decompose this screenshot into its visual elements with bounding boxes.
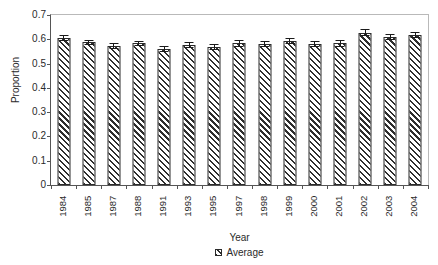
error-bar-cap-top: [260, 41, 269, 42]
error-bar-cap-top: [84, 40, 93, 41]
error-bar-cap-bottom: [109, 48, 118, 49]
error-bar: [210, 44, 219, 50]
bar-group: [202, 15, 227, 185]
error-bar: [134, 41, 143, 47]
y-tick-label: 0.3: [32, 107, 46, 117]
x-tick-mark: [126, 185, 127, 189]
x-tick-mark: [152, 185, 153, 189]
x-tick-label: 1988: [133, 177, 143, 217]
legend-swatch-icon: [215, 249, 222, 256]
plot-frame: 00.10.20.30.40.50.60.7: [50, 14, 429, 186]
x-tick-mark: [327, 185, 328, 189]
error-bar-cap-bottom: [160, 51, 169, 52]
x-tick-label: 1987: [108, 177, 118, 217]
error-bar-cap-bottom: [285, 43, 294, 44]
error-bar-cap-top: [336, 40, 345, 41]
x-tick-label: 2001: [334, 177, 344, 217]
x-tick-label: 1991: [158, 177, 168, 217]
bar: [409, 35, 422, 185]
x-tick-mark: [51, 185, 52, 189]
bar: [82, 42, 95, 185]
bar: [107, 46, 120, 185]
x-tick-label: 1985: [83, 177, 93, 217]
bar: [233, 43, 246, 185]
error-bar: [84, 40, 93, 45]
error-bar-cap-bottom: [210, 49, 219, 50]
x-tick-mark: [403, 185, 404, 189]
error-bar-cap-top: [210, 44, 219, 45]
bar-group: [227, 15, 252, 185]
bar-chart: Proportion 00.10.20.30.40.50.60.7 Year A…: [0, 0, 438, 265]
error-bar: [235, 40, 244, 46]
x-tick-label: 1993: [183, 177, 193, 217]
error-bar-cap-top: [235, 40, 244, 41]
error-bar: [310, 41, 319, 47]
error-bar: [59, 35, 68, 41]
error-bar-cap-bottom: [84, 44, 93, 45]
x-tick-label: 2003: [385, 177, 395, 217]
error-bar-cap-top: [185, 42, 194, 43]
bar: [258, 44, 271, 185]
bar-group: [403, 15, 428, 185]
x-tick-mark: [177, 185, 178, 189]
y-tick-label: 0.7: [32, 10, 46, 20]
y-tick-label: 0.5: [32, 59, 46, 69]
bar-group: [101, 15, 126, 185]
x-tick-label: 1995: [209, 177, 219, 217]
y-axis-title: Proportion: [9, 0, 23, 180]
error-bar-cap-top: [411, 32, 420, 33]
error-bar-cap-bottom: [185, 47, 194, 48]
error-bar-cap-top: [310, 41, 319, 42]
error-bar: [411, 32, 420, 37]
x-tick-mark: [227, 185, 228, 189]
bar: [208, 47, 221, 185]
error-bar-cap-bottom: [361, 35, 370, 36]
error-bar: [109, 43, 118, 49]
bar: [283, 41, 296, 185]
x-tick-label: 2002: [359, 177, 369, 217]
error-bar: [185, 42, 194, 48]
bar-group: [76, 15, 101, 185]
error-bar-cap-top: [285, 38, 294, 39]
bar-group: [378, 15, 403, 185]
bar-group: [126, 15, 151, 185]
error-bar-cap-top: [109, 43, 118, 44]
x-axis-title: Year: [50, 232, 429, 243]
error-bar-cap-bottom: [134, 45, 143, 46]
error-bar-cap-bottom: [386, 39, 395, 40]
bar: [359, 33, 372, 185]
bar-group: [277, 15, 302, 185]
error-bar-cap-top: [59, 35, 68, 36]
error-bar-cap-top: [160, 46, 169, 47]
error-bar-cap-top: [361, 29, 370, 30]
bar: [384, 37, 397, 185]
error-bar-cap-bottom: [411, 37, 420, 38]
y-tick-label: 0.1: [32, 156, 46, 166]
x-tick-label: 1998: [259, 177, 269, 217]
bar-group: [327, 15, 352, 185]
bar-group: [152, 15, 177, 185]
y-tick-label: 0.2: [32, 131, 46, 141]
x-tick-label: 1997: [234, 177, 244, 217]
x-tick-label: 2004: [410, 177, 420, 217]
y-tick-label: 0.4: [32, 83, 46, 93]
error-bar-cap-top: [134, 41, 143, 42]
bar-group: [177, 15, 202, 185]
error-bar: [285, 38, 294, 44]
bar: [183, 45, 196, 185]
error-bar-cap-bottom: [310, 46, 319, 47]
x-tick-label: 1999: [284, 177, 294, 217]
bar: [334, 43, 347, 185]
error-bar-cap-top: [386, 34, 395, 35]
error-bar-cap-bottom: [235, 46, 244, 47]
x-tick-label: 1984: [58, 177, 68, 217]
x-tick-label: 2000: [309, 177, 319, 217]
bar: [308, 44, 321, 185]
error-bar: [386, 34, 395, 40]
error-bar: [336, 40, 345, 46]
x-tick-mark: [302, 185, 303, 189]
error-bar: [361, 29, 370, 36]
x-tick-mark: [353, 185, 354, 189]
bar-group: [51, 15, 76, 185]
bar: [132, 43, 145, 185]
